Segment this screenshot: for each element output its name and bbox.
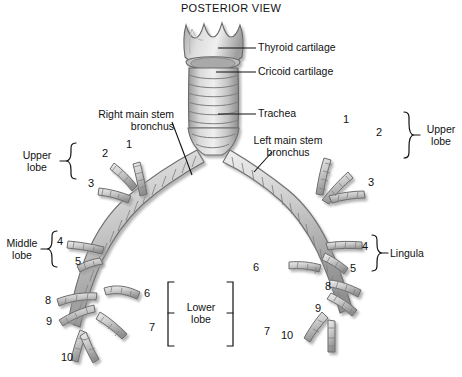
label-trachea: Trachea: [258, 107, 296, 119]
label-left-main-stem-bronchus: Left main stem bronchus: [243, 134, 333, 158]
segment-number-right-upper-2: 2: [102, 148, 108, 159]
label-lingula: Lingula: [390, 247, 424, 259]
segment-number-left-upper-1: 1: [343, 114, 349, 125]
airway-trunk: [184, 23, 243, 155]
segment-number-left-lower-6: 6: [253, 262, 259, 273]
label-upper-lobe-right: Upper lobe: [420, 123, 462, 147]
left-main-stem-bronchus-shape: [223, 150, 352, 313]
segment-number-left-upper-2: 2: [376, 127, 382, 138]
figure-canvas: POSTERIOR VIEW: [0, 0, 462, 377]
segment-number-right-upper-1: 1: [126, 139, 132, 150]
label-upper-lobe-left: Upper lobe: [14, 149, 60, 173]
label-thyroid-cartilage: Thyroid cartilage: [258, 41, 336, 53]
label-right-main-stem-bronchus: Right main stem bronchus: [96, 108, 174, 132]
bracket-upper-lobe-right: [404, 112, 414, 158]
segment-number-left-lower-9: 9: [315, 303, 321, 314]
segment-number-right-lower-9: 9: [46, 316, 52, 327]
bracket-lingula: [372, 235, 382, 271]
label-lower-lobe: Lower lobe: [179, 301, 223, 325]
bronchial-tree-illustration: [0, 0, 462, 377]
segment-number-left-lower-10: 10: [281, 330, 293, 341]
bracket-upper-lobe-left: [66, 143, 76, 179]
segment-number-left-lower-7: 7: [264, 326, 270, 337]
segment-number-left-lower-8: 8: [325, 281, 331, 292]
segment-number-right-middle-5: 5: [75, 256, 81, 267]
bracket-lower-lobe-left: [168, 282, 174, 346]
bracket-lower-lobe-right: [227, 282, 233, 346]
segment-number-left-lingula-5: 5: [350, 263, 356, 274]
bracket-middle-lobe: [47, 231, 57, 267]
label-cricoid-cartilage: Cricoid cartilage: [258, 65, 333, 77]
left-upper-lobe-branches: [316, 158, 365, 204]
left-lower-lobe-branches: [289, 262, 361, 352]
segment-number-right-lower-10: 10: [61, 352, 73, 363]
segment-number-right-middle-4: 4: [57, 236, 63, 247]
segment-number-left-upper-3: 3: [368, 177, 374, 188]
segment-number-right-lower-6: 6: [144, 288, 150, 299]
segment-number-left-lingula-4: 4: [362, 241, 368, 252]
label-middle-lobe: Middle lobe: [0, 237, 44, 261]
segment-number-right-upper-3: 3: [88, 178, 94, 189]
segment-number-right-lower-8: 8: [45, 295, 51, 306]
segment-number-right-lower-7: 7: [149, 322, 155, 333]
